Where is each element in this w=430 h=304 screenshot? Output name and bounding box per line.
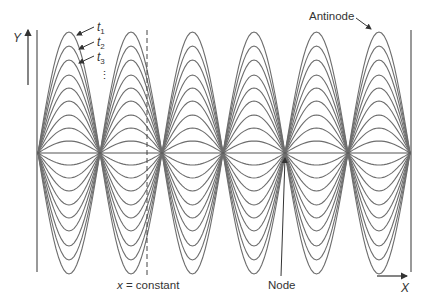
- y-axis-label: Y: [13, 31, 22, 45]
- antinode-label: Antinode: [309, 10, 354, 22]
- antinode-arrow: [356, 18, 371, 29]
- wave-curve: [38, 60, 410, 153]
- svg-text:t3: t3: [97, 50, 105, 66]
- time-labels: t1 t2 t3 ⋮: [77, 20, 110, 81]
- x-constant-label: x = constant: [116, 279, 180, 291]
- wave-curve: [38, 153, 410, 246]
- svg-text:t2: t2: [97, 35, 105, 51]
- svg-text:⋮: ⋮: [99, 69, 110, 81]
- wave-curve: [38, 153, 410, 274]
- wave-curve: [38, 32, 410, 153]
- standing-wave-diagram: Y X x = constant t1 t2 t3 ⋮ Antinode Nod…: [0, 0, 430, 304]
- x-axis-label: X: [400, 281, 410, 295]
- svg-text:t1: t1: [97, 20, 105, 36]
- node-label: Node: [268, 279, 296, 291]
